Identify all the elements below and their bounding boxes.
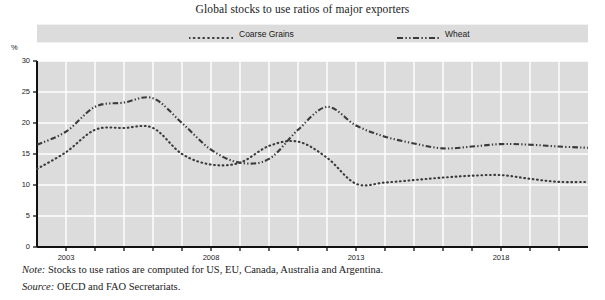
note-lead: Note: [22, 264, 45, 275]
y-tick-label: 5 [8, 211, 30, 220]
y-tick-label: 30 [8, 56, 30, 65]
x-tick-label: 2018 [481, 253, 521, 262]
y-tick-label: 20 [8, 118, 30, 127]
note-footnote: Note: Stocks to use ratios are computed … [22, 264, 383, 275]
x-tick-label: 2003 [46, 253, 86, 262]
x-tick-label: 2013 [336, 253, 376, 262]
y-tick-label: 25 [8, 87, 30, 96]
source-lead: Source: [22, 281, 54, 292]
note-text: Stocks to use ratios are computed for US… [48, 264, 383, 275]
data-series-group [37, 97, 588, 185]
y-tick-label: 0 [8, 242, 30, 251]
gridlines [37, 61, 588, 247]
figure-container: Global stocks to use ratios of major exp… [0, 0, 605, 300]
y-tick-label: 15 [8, 149, 30, 158]
axis-ticks [33, 61, 559, 251]
y-tick-label: 10 [8, 180, 30, 189]
source-text: OECD and FAO Secretariats. [57, 281, 180, 292]
source-footnote: Source: OECD and FAO Secretariats. [22, 281, 180, 292]
series-line-coarse-grains [37, 126, 588, 185]
x-tick-label: 2008 [191, 253, 231, 262]
